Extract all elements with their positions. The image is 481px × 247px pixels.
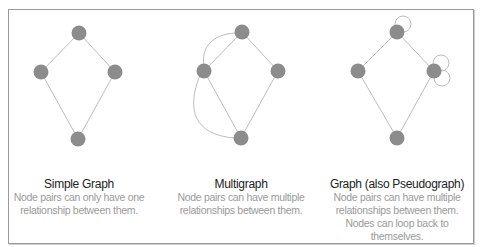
simple-graph — [41, 33, 115, 139]
node — [234, 131, 249, 146]
node — [34, 65, 49, 80]
node — [427, 64, 442, 79]
multigraph-title: Multigraph — [166, 177, 316, 191]
simple-graph-caption: Simple Graph Node pairs can only have on… — [4, 177, 154, 217]
node — [351, 64, 366, 79]
node — [72, 26, 87, 41]
pseudograph-desc-line: Node pairs can have multiple — [322, 191, 472, 204]
node — [197, 64, 212, 79]
pseudograph-desc-line: relationships between them. — [322, 204, 472, 217]
pseudograph-title: Graph (also Pseudograph) — [322, 177, 472, 191]
node — [390, 131, 405, 146]
multigraph-desc-line: relationships between them. — [166, 204, 316, 217]
node — [108, 65, 123, 80]
pseudograph-desc-line: Nodes can loop back to — [322, 217, 472, 230]
node — [390, 25, 405, 40]
multigraph-caption: Multigraph Node pairs can have multiple … — [166, 177, 316, 217]
multigraph — [194, 32, 278, 138]
node — [71, 132, 86, 147]
pseudograph-desc-line: themselves. — [322, 230, 472, 243]
multigraph-desc-line: Node pairs can have multiple — [166, 191, 316, 204]
pseudograph-caption: Graph (also Pseudograph) Node pairs can … — [322, 177, 472, 243]
node — [271, 64, 286, 79]
simple-graph-desc-line: relationship between them. — [4, 204, 154, 217]
node — [235, 25, 250, 40]
simple-graph-title: Simple Graph — [4, 177, 154, 191]
simple-graph-desc-line: Node pairs can only have one — [4, 191, 154, 204]
